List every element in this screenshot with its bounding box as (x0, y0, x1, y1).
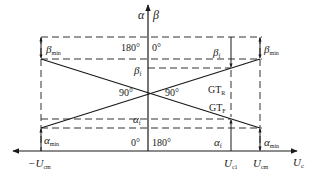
angle-0-top: 0° (152, 42, 161, 53)
beta-min-right-label: βmin (263, 43, 279, 56)
beta-f-center-label: βf (133, 64, 141, 77)
angle-90-right: 90° (165, 87, 179, 98)
alpha-min-left-label: αmin (44, 134, 59, 147)
beta-axis-label: β (152, 8, 159, 22)
ucm-label: Ucm (253, 157, 269, 170)
alpha-axis-label: α (138, 8, 145, 22)
gt-f-label: GTF (209, 102, 226, 114)
alpha-min-right-label: αmin (264, 136, 279, 149)
uc1-label: Uc1 (224, 157, 238, 170)
beta-f-right-label: βf (212, 46, 220, 59)
alpha-f-center-label: αf (133, 113, 141, 126)
alpha-beta-control-diagram: α β Uc 180° 0° 0° 180° 90° 90° βmin βmin… (0, 0, 314, 181)
gt-r-label: GTR (208, 84, 225, 96)
alpha-f-right-label: αf (214, 136, 222, 149)
angle-90-left: 90° (119, 87, 133, 98)
angle-180-top: 180° (121, 42, 140, 53)
angle-180-bottom: 180° (152, 137, 171, 148)
neg-ucm-label: −Ucm (28, 157, 51, 170)
uc-axis-label: Uc (293, 156, 304, 170)
beta-min-left-label: βmin (45, 43, 61, 56)
angle-0-bottom: 0° (131, 137, 140, 148)
